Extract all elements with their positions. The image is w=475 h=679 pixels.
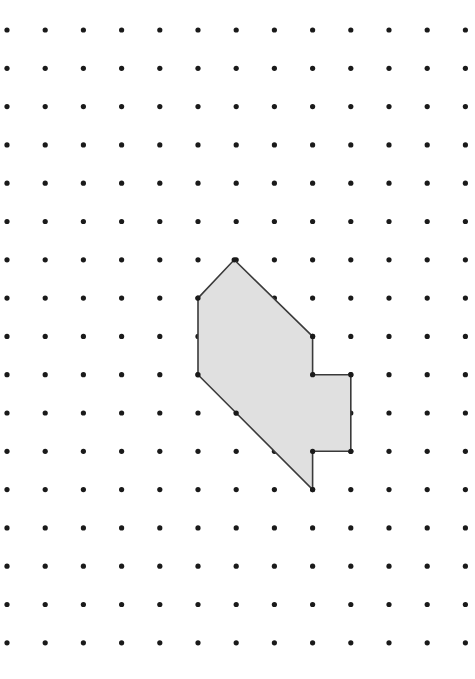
grid-dot [310, 66, 315, 71]
grid-dot [463, 66, 468, 71]
grid-dot [234, 564, 239, 569]
grid-dot [4, 640, 9, 645]
grid-dot-group [4, 27, 468, 645]
grid-dot [425, 487, 430, 492]
grid-dot [425, 219, 430, 224]
grid-dot [310, 640, 315, 645]
grid-dot [348, 372, 353, 377]
grid-dot [272, 372, 277, 377]
grid-dot [386, 181, 391, 186]
grid-dot [348, 487, 353, 492]
grid-dot [4, 449, 9, 454]
grid-dot [386, 564, 391, 569]
grid-dot [425, 564, 430, 569]
grid-dot [81, 104, 86, 109]
grid-dot [386, 27, 391, 32]
grid-dot [234, 181, 239, 186]
grid-dot [386, 372, 391, 377]
grid-dot [81, 66, 86, 71]
grid-dot [43, 142, 48, 147]
grid-dot [348, 449, 353, 454]
grid-dot [463, 142, 468, 147]
grid-dot [81, 142, 86, 147]
grid-dot [4, 104, 9, 109]
grid-dot [81, 640, 86, 645]
grid-dot [348, 27, 353, 32]
grid-dot [386, 487, 391, 492]
grid-dot [425, 257, 430, 262]
grid-dot [425, 602, 430, 607]
grid-dot [463, 410, 468, 415]
grid-dot [425, 296, 430, 301]
grid-dot [81, 487, 86, 492]
grid-dot [272, 181, 277, 186]
grid-dot [195, 66, 200, 71]
grid-dot [195, 640, 200, 645]
grid-dot [425, 449, 430, 454]
grid-dot [272, 27, 277, 32]
grid-dot [272, 334, 277, 339]
grid-dot [425, 104, 430, 109]
grid-dot [195, 219, 200, 224]
grid-dot [310, 334, 315, 339]
grid-dot [348, 66, 353, 71]
grid-dot [386, 296, 391, 301]
grid-dot [195, 142, 200, 147]
grid-dot [425, 372, 430, 377]
grid-dot [386, 602, 391, 607]
grid-dot [81, 296, 86, 301]
grid-dot [425, 181, 430, 186]
grid-dot [234, 257, 239, 262]
grid-dot [463, 640, 468, 645]
grid-dot [43, 27, 48, 32]
grid-dot [272, 104, 277, 109]
grid-dot [4, 257, 9, 262]
grid-dot [195, 181, 200, 186]
grid-dot [425, 27, 430, 32]
grid-dot [157, 372, 162, 377]
grid-dot [463, 296, 468, 301]
grid-dot [119, 334, 124, 339]
grid-dot [4, 142, 9, 147]
grid-dot [272, 410, 277, 415]
grid-dot [4, 219, 9, 224]
grid-dot [272, 449, 277, 454]
grid-dot [81, 219, 86, 224]
grid-dot [119, 104, 124, 109]
grid-dot [119, 449, 124, 454]
grid-dot [81, 27, 86, 32]
grid-dot [157, 181, 162, 186]
grid-dot [348, 181, 353, 186]
grid-dot [386, 66, 391, 71]
grid-dot [463, 449, 468, 454]
grid-dot [425, 525, 430, 530]
grid-dot [195, 410, 200, 415]
grid-dot [348, 257, 353, 262]
grid-dot [234, 602, 239, 607]
grid-dot [310, 564, 315, 569]
grid-dot [157, 334, 162, 339]
grid-dot [348, 410, 353, 415]
grid-dot [195, 104, 200, 109]
grid-dot [195, 525, 200, 530]
grid-dot [310, 602, 315, 607]
grid-dot [310, 372, 315, 377]
grid-dot [463, 219, 468, 224]
grid-dot [348, 142, 353, 147]
grid-dot [234, 372, 239, 377]
grid-dot [463, 27, 468, 32]
grid-dot [81, 525, 86, 530]
grid-dot [4, 334, 9, 339]
grid-dot [386, 449, 391, 454]
grid-dot [81, 564, 86, 569]
grid-dot [43, 334, 48, 339]
grid-dot [463, 372, 468, 377]
grid-dot [157, 219, 162, 224]
grid-dot [386, 525, 391, 530]
grid-dot [119, 640, 124, 645]
grid-dot [425, 410, 430, 415]
grid-dot [119, 410, 124, 415]
grid-dot [234, 66, 239, 71]
grid-dot [195, 27, 200, 32]
grid-dot [43, 410, 48, 415]
